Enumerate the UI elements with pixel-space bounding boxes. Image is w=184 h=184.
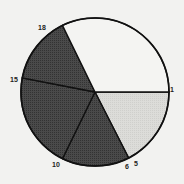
boundary-label-5: 5 <box>134 160 138 167</box>
boundary-label-10: 10 <box>52 161 60 168</box>
pie-chart <box>0 0 184 184</box>
boundary-label-18: 18 <box>38 24 46 31</box>
boundary-label-1: 1 <box>170 86 174 93</box>
boundary-label-6: 6 <box>125 163 129 170</box>
boundary-label-15: 15 <box>10 76 18 83</box>
